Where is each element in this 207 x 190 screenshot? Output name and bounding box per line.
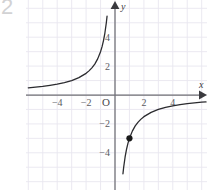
y-axis-label: y: [120, 1, 126, 12]
y-tick-label: 4: [105, 32, 110, 43]
curve-branch-right: [123, 102, 206, 174]
x-tick-label: 2: [141, 97, 146, 108]
x-tick-label: −2: [81, 97, 92, 108]
x-axis-arrow-icon: [199, 91, 207, 100]
x-tick-label: −4: [52, 97, 63, 108]
y-axis-arrow-icon: [111, 1, 120, 9]
point-annotations: [126, 135, 132, 141]
y-tick-label: −4: [99, 147, 110, 158]
y-tick-label: −2: [99, 118, 110, 129]
x-axis-label: x: [198, 79, 204, 90]
marked-point: [126, 135, 132, 141]
x-axis-tick-labels: −4−224: [52, 97, 175, 108]
figure-canvas: 2 −4−224 −4−224 O x y: [0, 0, 207, 190]
y-tick-label: 2: [105, 61, 110, 72]
axes: [26, 1, 207, 190]
coordinate-plot: −4−224 −4−224 O x y: [0, 0, 207, 190]
origin-label: O: [102, 96, 110, 108]
